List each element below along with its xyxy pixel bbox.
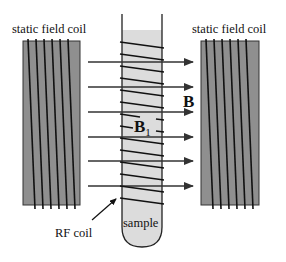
right-coil-label: static field coil — [192, 22, 267, 36]
rf-coil-label: RF coil — [55, 226, 93, 240]
left-static-field-coil — [23, 39, 80, 209]
rf-coil-pointer-arrow — [92, 199, 116, 220]
static-field-label: B — [183, 92, 194, 111]
sample-label: sample — [123, 216, 159, 230]
right-static-field-coil — [201, 39, 259, 209]
left-coil-label: static field coil — [12, 22, 87, 36]
nmr-diagram: static field coil static field coil — [0, 0, 286, 262]
